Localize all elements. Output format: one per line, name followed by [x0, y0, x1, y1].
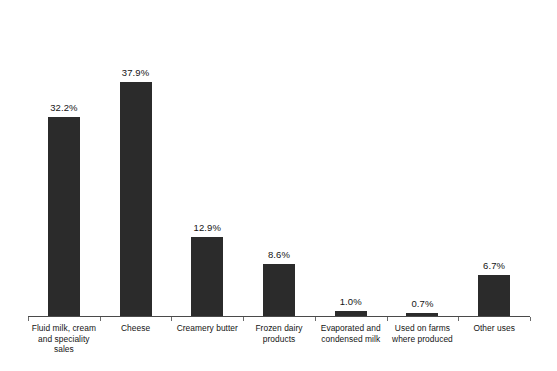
axis-tick	[171, 317, 172, 321]
bar-group: 6.7%	[454, 260, 534, 317]
bar	[263, 264, 295, 317]
category-label-line: and speciality	[20, 334, 108, 345]
category-label: Other uses	[450, 323, 538, 334]
bar-group: 8.6%	[239, 249, 319, 317]
bar-value-label: 6.7%	[483, 260, 505, 271]
bar-value-label: 12.9%	[194, 222, 221, 233]
axis-tick	[28, 317, 29, 321]
axis-tick	[530, 317, 531, 321]
axis-tick	[387, 317, 388, 321]
category-label-line: sales	[20, 344, 108, 355]
category-axis-line	[28, 316, 530, 317]
bar	[191, 237, 223, 317]
axis-tick	[458, 317, 459, 321]
plot-area: 32.2%37.9%12.9%8.6%1.0%0.7%6.7%	[28, 10, 530, 317]
bar-chart: 32.2%37.9%12.9%8.6%1.0%0.7%6.7% Fluid mi…	[0, 0, 557, 371]
bar-value-label: 1.0%	[340, 296, 362, 307]
bar-group: 32.2%	[24, 102, 104, 317]
bar-value-label: 0.7%	[411, 298, 433, 309]
axis-tick	[243, 317, 244, 321]
bar-group: 0.7%	[382, 298, 462, 317]
bar-value-label: 37.9%	[122, 67, 149, 78]
axis-tick	[315, 317, 316, 321]
axis-tick	[100, 317, 101, 321]
bar-group: 37.9%	[96, 67, 176, 317]
bar-group: 1.0%	[311, 296, 391, 317]
bar	[48, 117, 80, 317]
bar-group: 12.9%	[167, 222, 247, 317]
bar	[120, 82, 152, 317]
category-label-line: Other uses	[450, 323, 538, 334]
bar	[478, 275, 510, 317]
bar-value-label: 8.6%	[268, 249, 290, 260]
bar-value-label: 32.2%	[50, 102, 77, 113]
category-label-line: where produced	[378, 334, 466, 345]
